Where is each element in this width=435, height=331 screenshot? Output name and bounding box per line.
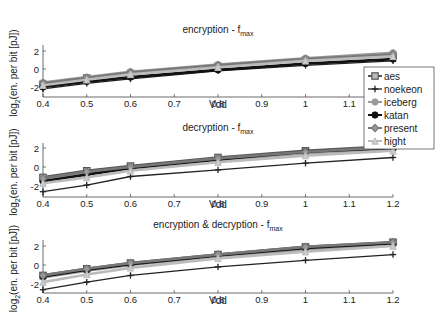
x-tick-label: 1 xyxy=(303,98,308,109)
x-tick-label: 1 xyxy=(303,198,308,209)
y-tick-label: 2 xyxy=(34,46,39,57)
y-tick-label: 2 xyxy=(34,241,39,252)
chart-panel-3: 0.40.50.60.70.80.911.11.220-2encryption … xyxy=(8,219,400,312)
legend-label: hight xyxy=(384,136,406,147)
x-tick-label: 0.5 xyxy=(80,198,93,209)
x-tick-label: 1.1 xyxy=(343,294,356,305)
x-tick-label: 0.7 xyxy=(168,98,181,109)
y-tick-label: 0 xyxy=(34,64,39,75)
legend-label: noekeon xyxy=(384,84,422,95)
legend-label: iceberg xyxy=(384,97,417,108)
x-tick-label: 0.6 xyxy=(124,294,137,305)
x-tick-label: 1.1 xyxy=(343,98,356,109)
x-tick-label: 0.9 xyxy=(255,294,268,305)
x-tick-label: 0.9 xyxy=(255,98,268,109)
x-tick-label: 1.2 xyxy=(386,294,399,305)
y-tick-label: 0 xyxy=(34,260,39,271)
x-tick-label: 0.4 xyxy=(36,198,49,209)
legend-label: aes xyxy=(384,71,400,82)
x-tick-label: 0.6 xyxy=(124,198,137,209)
x-tick-label: 0.4 xyxy=(36,98,49,109)
panel-title: encryption - fmax xyxy=(182,24,254,37)
x-axis-label: Vdd xyxy=(209,295,227,306)
x-axis-label: Vdd xyxy=(209,99,227,110)
y-tick-label: -2 xyxy=(31,181,39,192)
panel-title: encryption & decryption - fmax xyxy=(153,219,283,232)
x-tick-label: 1.1 xyxy=(343,198,356,209)
x-tick-label: 0.7 xyxy=(168,294,181,305)
y-axis-label: log2(en. per bit [pJ]) xyxy=(8,128,21,215)
y-tick-label: 2 xyxy=(34,143,39,154)
chart-panel-2: 0.40.50.60.70.80.911.11.220-2decryption … xyxy=(8,122,400,216)
legend: aesnoekeonicebergkatanpresenthight xyxy=(364,67,434,149)
x-tick-label: 0.5 xyxy=(80,98,93,109)
legend-label: present xyxy=(384,123,418,134)
x-tick-label: 0.5 xyxy=(80,294,93,305)
x-tick-label: 1.2 xyxy=(386,198,399,209)
x-tick-label: 0.4 xyxy=(36,294,49,305)
x-axis-label: Vdd xyxy=(209,199,227,210)
y-tick-label: 0 xyxy=(34,162,39,173)
chart-panel-1: 0.40.50.60.70.80.911.11.220-2encryption … xyxy=(8,24,400,117)
x-tick-label: 1 xyxy=(303,294,308,305)
panel-title: decryption - fmax xyxy=(182,122,254,135)
legend-entry-present: present xyxy=(368,123,418,134)
chart-figure: 0.40.50.60.70.80.911.11.220-2encryption … xyxy=(0,0,435,331)
y-axis-label: log2(en. per bit [pJ]) xyxy=(8,29,21,116)
x-tick-label: 0.9 xyxy=(255,198,268,209)
y-tick-label: -2 xyxy=(31,82,39,93)
x-tick-label: 0.7 xyxy=(168,198,181,209)
y-axis-label: log2(en. per bit [pJ]) xyxy=(8,225,21,312)
x-tick-label: 0.6 xyxy=(124,98,137,109)
y-tick-label: -2 xyxy=(31,279,39,290)
legend-label: katan xyxy=(384,110,408,121)
